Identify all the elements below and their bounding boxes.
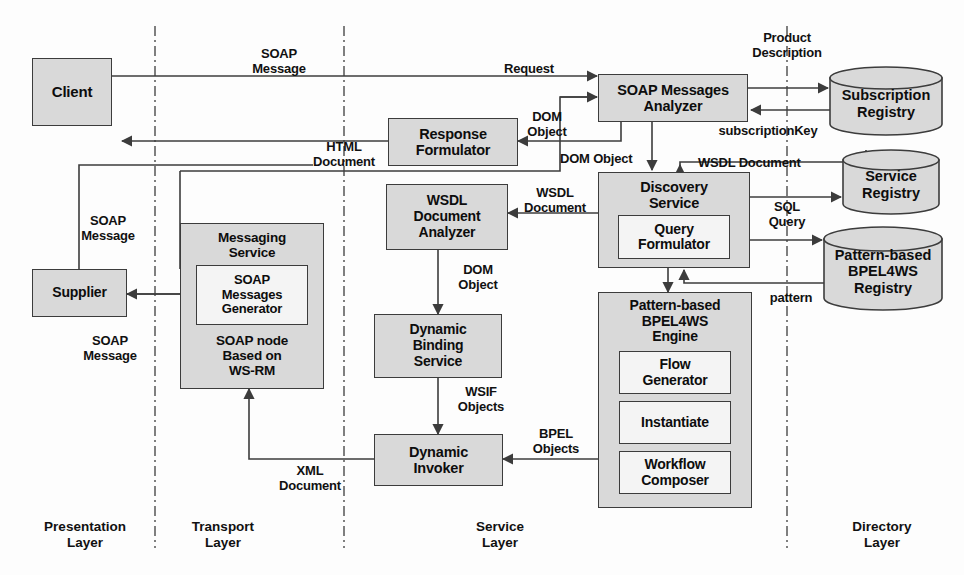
edge-label-dom-object-discovery: DOM Object (560, 152, 670, 167)
node-supplier-label: Supplier (33, 285, 126, 301)
node-wsdl-document-analyzer[interactable]: WSDL Document Analyzer (386, 184, 508, 250)
edge-label-soap-message-supplier-in: SOAP Message (62, 214, 154, 244)
node-dynamic-invoker[interactable]: Dynamic Invoker (374, 434, 503, 486)
inner-workflow-composer[interactable]: Workflow Composer (619, 451, 731, 494)
node-soap-messages-analyzer-label: SOAP Messages Analyzer (599, 82, 747, 114)
inner-workflow-composer-label: Workflow Composer (641, 457, 709, 488)
node-bpel-engine[interactable]: Pattern-based BPEL4WS Engine Flow Genera… (598, 292, 752, 508)
node-messaging-service-label: Messaging Service (181, 230, 323, 260)
edge-label-request: Request (489, 62, 569, 77)
layer-label-service: Service Layer (440, 519, 560, 551)
node-messaging-service[interactable]: Messaging Service SOAP Messages Generato… (180, 223, 324, 389)
layer-label-presentation: Presentation Layer (25, 519, 145, 551)
node-bpel-engine-label: Pattern-based BPEL4WS Engine (599, 298, 751, 345)
edge-label-product-description: Product Description (734, 31, 840, 61)
node-response-formulator-label: Response Formulator (389, 126, 517, 158)
node-soap-messages-analyzer[interactable]: SOAP Messages Analyzer (598, 74, 748, 122)
node-discovery-service[interactable]: Discovery Service Query Formulator (598, 172, 750, 268)
inner-query-formulator[interactable]: Query Formulator (618, 215, 730, 259)
inner-flow-generator-label: Flow Generator (642, 357, 707, 388)
node-dynamic-binding-service-label: Dynamic Binding Service (375, 322, 501, 369)
node-client[interactable]: Client (32, 58, 112, 126)
edge-label-html-document: HTML Document (288, 140, 400, 170)
registry-subscription[interactable]: Subscription Registry (828, 66, 944, 136)
edge-label-wsif-objects: WSIF Objects (445, 385, 517, 415)
edge-label-dom-object-binding: DOM Object (445, 263, 511, 293)
inner-instantiate-label: Instantiate (641, 415, 709, 431)
inner-soap-messages-generator[interactable]: SOAP Messages Generator (196, 265, 308, 325)
node-dynamic-binding-service[interactable]: Dynamic Binding Service (374, 314, 502, 378)
edge-label-dom-object-analyzer: DOM Object (514, 110, 580, 140)
registry-subscription-label: Subscription Registry (828, 82, 944, 119)
registry-bpel-label: Pattern-based BPEL4WS Registry (822, 242, 944, 296)
node-wsdl-document-analyzer-label: WSDL Document Analyzer (387, 193, 507, 240)
edge-label-pattern: pattern (756, 291, 826, 306)
node-client-label: Client (33, 84, 111, 101)
node-messaging-service-footer: SOAP node Based on WS-RM (181, 333, 323, 378)
edge-label-soap-message-top: SOAP Message (234, 47, 324, 77)
layer-label-directory: Directory Layer (822, 519, 942, 551)
edge-label-soap-message-supplier-out: SOAP Message (62, 334, 158, 364)
registry-bpel[interactable]: Pattern-based BPEL4WS Registry (822, 226, 944, 312)
edge-label-xml-document: XML Document (254, 464, 366, 494)
inner-instantiate[interactable]: Instantiate (619, 401, 731, 444)
node-response-formulator[interactable]: Response Formulator (388, 118, 518, 166)
node-dynamic-invoker-label: Dynamic Invoker (375, 444, 502, 476)
node-supplier[interactable]: Supplier (32, 269, 127, 317)
edge-label-subscription-key: subscriptionKey (700, 124, 836, 139)
layer-label-transport: Transport Layer (163, 519, 283, 551)
inner-query-formulator-label: Query Formulator (638, 222, 710, 253)
registry-service-label: Service Registry (841, 163, 941, 200)
edge-label-wsdl-document-right: WSDL Document (698, 156, 838, 171)
inner-soap-messages-generator-label: SOAP Messages Generator (222, 273, 283, 317)
registry-service[interactable]: Service Registry (841, 149, 941, 215)
diagram-canvas: Client Supplier Messaging Service SOAP M… (0, 0, 964, 575)
node-discovery-service-label: Discovery Service (599, 179, 749, 211)
inner-flow-generator[interactable]: Flow Generator (619, 351, 731, 394)
edge-label-sql-query: SQL Query (754, 200, 820, 230)
edge-label-bpel-objects: BPEL Objects (519, 427, 593, 457)
edge-label-wsdl-document-left: WSDL Document (513, 186, 597, 216)
